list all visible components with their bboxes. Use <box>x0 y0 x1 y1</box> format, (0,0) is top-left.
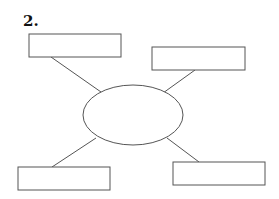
connector-top-left <box>51 57 101 92</box>
box-top-right[interactable] <box>152 47 245 70</box>
connector-bottom-right <box>167 138 199 162</box>
spider-diagram <box>0 0 279 199</box>
box-bottom-right[interactable] <box>173 162 265 185</box>
connector-bottom-left <box>52 138 96 167</box>
box-bottom-left[interactable] <box>18 167 110 190</box>
box-top-left[interactable] <box>29 34 121 57</box>
connector-top-right <box>163 70 195 93</box>
center-ellipse[interactable] <box>83 85 183 145</box>
